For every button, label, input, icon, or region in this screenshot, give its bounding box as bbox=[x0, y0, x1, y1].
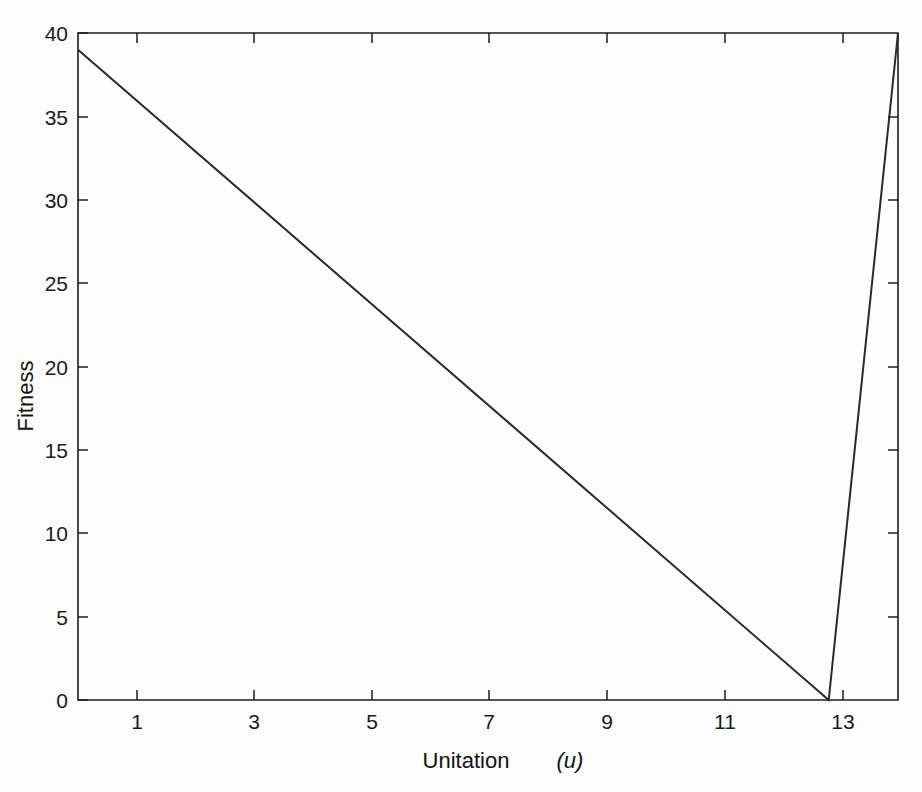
y-tick-label-35: 35 bbox=[45, 106, 68, 129]
y-axis-right-ticks bbox=[888, 117, 898, 617]
x-tick-label-5: 5 bbox=[366, 710, 378, 733]
y-tick-label-10: 10 bbox=[45, 522, 68, 545]
x-tick-label-11: 11 bbox=[714, 710, 736, 733]
y-tick-label-40: 40 bbox=[45, 22, 68, 45]
y-tick-label-30: 30 bbox=[45, 189, 68, 212]
figure-page: 0 5 10 15 20 25 30 35 40 1 3 5 7 9 11 13… bbox=[0, 0, 922, 792]
y-tick-label-5: 5 bbox=[56, 606, 68, 629]
data-series-fitness bbox=[78, 33, 898, 700]
fitness-unitation-chart: 0 5 10 15 20 25 30 35 40 1 3 5 7 9 11 13… bbox=[0, 0, 922, 792]
y-tick-labels: 0 5 10 15 20 25 30 35 40 bbox=[45, 22, 68, 712]
x-tick-label-9: 9 bbox=[601, 710, 613, 733]
y-tick-label-25: 25 bbox=[45, 272, 68, 295]
fitness-polyline bbox=[78, 33, 898, 700]
x-tick-label-3: 3 bbox=[248, 710, 260, 733]
y-axis-ticks bbox=[78, 33, 88, 700]
x-axis-title: Unitation bbox=[423, 748, 510, 773]
plot-frame bbox=[78, 33, 898, 700]
y-axis-title: Fitness bbox=[13, 361, 38, 432]
x-axis-top-ticks bbox=[137, 33, 843, 43]
x-tick-label-13: 13 bbox=[831, 710, 854, 733]
x-tick-label-1: 1 bbox=[131, 710, 143, 733]
y-tick-label-15: 15 bbox=[45, 439, 68, 462]
axis-titles: Unitation (u) Fitness bbox=[13, 361, 583, 773]
x-tick-label-7: 7 bbox=[483, 710, 495, 733]
x-axis-major-ticks bbox=[137, 690, 843, 700]
x-tick-labels: 1 3 5 7 9 11 13 bbox=[131, 710, 855, 733]
y-tick-label-20: 20 bbox=[45, 356, 68, 379]
x-axis-title-variable: (u) bbox=[557, 748, 584, 773]
y-tick-label-0: 0 bbox=[56, 689, 68, 712]
axis-frame-path bbox=[78, 33, 898, 700]
